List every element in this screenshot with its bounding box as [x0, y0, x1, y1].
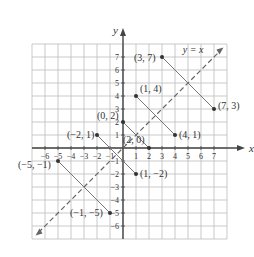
x-axis-arrow-icon [237, 145, 245, 151]
point-label: (−5, −1) [18, 159, 51, 171]
point-label: (3, 7) [134, 52, 156, 64]
line-label: y = x [182, 44, 204, 55]
data-point [173, 133, 177, 137]
y-tick-label: 5 [115, 79, 119, 88]
data-point [147, 146, 151, 150]
x-tick-label: −4 [67, 152, 76, 161]
data-point [212, 107, 216, 111]
data-point [121, 120, 125, 124]
data-point [134, 172, 138, 176]
point-label: (−2, 1) [67, 129, 94, 141]
x-tick-label: 3 [160, 152, 164, 161]
data-point [108, 211, 112, 215]
y-tick-label: −4 [110, 196, 119, 205]
x-tick-label: −2 [93, 152, 102, 161]
y-tick-label: −1 [110, 157, 119, 166]
data-point [160, 55, 164, 59]
y-tick-label: 6 [115, 66, 119, 75]
x-tick-label: 2 [147, 152, 151, 161]
point-label: (4, 1) [179, 129, 201, 141]
y-tick-label: 7 [115, 53, 119, 62]
reflection-diagram: xy−6−5−4−3−2−11234567−6−5−4−3−2−11234567… [0, 0, 254, 257]
x-tick-label: 7 [212, 152, 216, 161]
x-tick-label: 6 [199, 152, 203, 161]
point-label: (7, 3) [218, 100, 240, 112]
y-tick-label: 4 [115, 92, 119, 101]
y-axis-label: y [112, 24, 118, 36]
y-tick-label: −2 [110, 170, 119, 179]
data-point [134, 94, 138, 98]
point-label: (1, 4) [140, 83, 162, 95]
x-tick-label: 1 [134, 152, 138, 161]
data-point [56, 159, 60, 163]
point-label: (1, −2) [140, 168, 167, 180]
data-point [95, 133, 99, 137]
x-axis-label: x [248, 142, 254, 154]
y-tick-label: −3 [110, 183, 119, 192]
x-tick-label: 4 [173, 152, 177, 161]
coordinate-plane: xy−6−5−4−3−2−11234567−6−5−4−3−2−11234567… [0, 0, 254, 257]
x-tick-label: 5 [186, 152, 190, 161]
y-tick-label: 1 [115, 131, 119, 140]
point-label: (0, 2) [97, 110, 119, 122]
point-label: (−1, −5) [70, 207, 103, 219]
y-axis-arrow-icon [120, 28, 126, 36]
y-tick-label: −6 [110, 222, 119, 231]
point-label: (2, 0) [123, 134, 145, 146]
x-tick-label: −3 [80, 152, 89, 161]
